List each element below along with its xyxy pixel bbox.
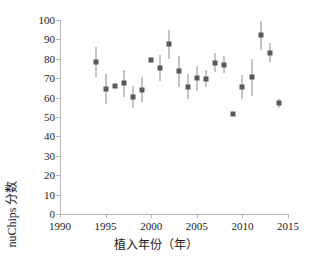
y-tick-mark: [56, 78, 60, 79]
y-tick-mark: [56, 156, 60, 157]
x-tick-label: 2000: [140, 220, 162, 232]
x-tick-mark: [242, 214, 243, 218]
y-tick-label: 60: [44, 92, 55, 103]
caption-fragment: [0, 258, 312, 267]
y-tick-label: 20: [44, 170, 55, 181]
x-tick-label: 2010: [231, 220, 253, 232]
x-tick-mark: [151, 214, 152, 218]
data-point[interactable]: [94, 60, 99, 65]
data-point[interactable]: [203, 76, 208, 81]
data-point[interactable]: [149, 57, 154, 62]
y-tick-mark: [56, 39, 60, 40]
data-point[interactable]: [185, 84, 190, 89]
x-tick-label: 1990: [49, 220, 71, 232]
data-point[interactable]: [249, 75, 254, 80]
data-point[interactable]: [276, 101, 281, 106]
y-tick-label: 40: [44, 131, 55, 142]
data-point[interactable]: [240, 84, 245, 89]
y-tick-mark: [56, 117, 60, 118]
y-tick-label: 50: [44, 112, 55, 123]
x-tick-mark: [197, 214, 198, 218]
data-point[interactable]: [194, 76, 199, 81]
y-tick-label: 90: [44, 34, 55, 45]
y-tick-mark: [56, 98, 60, 99]
y-tick-label: 100: [39, 15, 56, 26]
data-point[interactable]: [176, 69, 181, 74]
x-tick-mark: [60, 214, 61, 218]
data-point[interactable]: [167, 42, 172, 47]
y-tick-label: 0: [50, 209, 56, 220]
data-point[interactable]: [222, 62, 227, 67]
y-tick-label: 30: [44, 150, 55, 161]
y-tick-mark: [56, 20, 60, 21]
x-axis-title: 植入年份（年）: [0, 238, 312, 252]
data-point[interactable]: [267, 50, 272, 55]
data-point[interactable]: [130, 94, 135, 99]
y-tick-mark: [56, 195, 60, 196]
data-point[interactable]: [140, 87, 145, 92]
x-tick-label: 2015: [277, 220, 299, 232]
plot-area: 0102030405060708090100 19901995200020052…: [60, 20, 288, 214]
data-point[interactable]: [158, 65, 163, 70]
x-axis-line: [60, 214, 289, 215]
x-tick-mark: [288, 214, 289, 218]
y-tick-label: 80: [44, 53, 55, 64]
x-tick-label: 2005: [186, 220, 208, 232]
y-tick-mark: [56, 136, 60, 137]
data-point[interactable]: [103, 87, 108, 92]
data-point[interactable]: [112, 83, 117, 88]
y-tick-mark: [56, 59, 60, 60]
data-point[interactable]: [121, 81, 126, 86]
figure-scatter-chart: nuChips 分数 0102030405060708090100 199019…: [0, 0, 312, 267]
y-tick-mark: [56, 175, 60, 176]
x-tick-label: 1995: [95, 220, 117, 232]
data-point[interactable]: [213, 60, 218, 65]
data-point[interactable]: [258, 33, 263, 38]
y-tick-label: 10: [44, 189, 55, 200]
data-point[interactable]: [231, 112, 236, 117]
x-tick-mark: [106, 214, 107, 218]
y-tick-label: 70: [44, 73, 55, 84]
